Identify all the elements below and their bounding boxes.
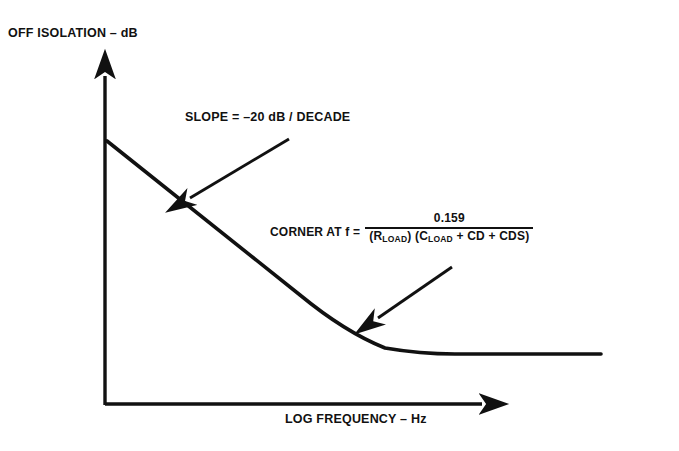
denominator-close-r: ) (C (407, 229, 428, 243)
fraction-denominator: (RLOAD) (CLOAD + CD + CDS) (365, 229, 533, 244)
corner-frequency-fraction: 0.159 (RLOAD) (CLOAD + CD + CDS) (365, 212, 533, 244)
off-isolation-figure: OFF ISOLATION – dB LOG FREQUENCY – Hz SL… (0, 0, 679, 451)
fraction-numerator: 0.159 (428, 212, 471, 227)
response-curve (107, 141, 601, 354)
denominator-open-r: (R (369, 229, 382, 243)
x-axis-label: LOG FREQUENCY – Hz (285, 412, 427, 426)
slope-annotation-arrow (190, 139, 289, 198)
y-axis-label: OFF ISOLATION – dB (8, 26, 138, 40)
denominator-tail: + CD + CDS) (453, 229, 529, 243)
denominator-r-subscript: LOAD (382, 234, 407, 244)
corner-lead-text: CORNER AT f = (270, 216, 360, 239)
corner-annotation-arrow (378, 267, 452, 318)
corner-frequency-annotation: CORNER AT f = 0.159 (RLOAD) (CLOAD + CD … (270, 212, 533, 244)
slope-annotation-label: SLOPE = –20 dB / DECADE (185, 110, 350, 124)
denominator-c-subscript: LOAD (428, 234, 453, 244)
